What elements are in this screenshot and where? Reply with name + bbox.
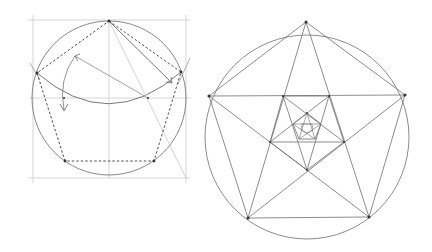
pentagon-construction-diagram (0, 0, 432, 252)
diagonal-guide (109, 21, 186, 178)
frame-guides (28, 15, 190, 183)
outer-pentagon (209, 22, 405, 218)
right-vertices (208, 21, 407, 220)
innermost-pentagon (301, 124, 313, 133)
radius-arrow-line (75, 56, 148, 98)
right-figure-pentagram (205, 21, 409, 240)
right-circumcircle (205, 35, 409, 239)
left-figure-pentagon-construction (28, 15, 190, 183)
chord-top-to-right (109, 21, 172, 83)
diagram-svg (0, 0, 432, 252)
inner-pentagon-2 (293, 113, 321, 139)
swing-arc (62, 56, 75, 110)
